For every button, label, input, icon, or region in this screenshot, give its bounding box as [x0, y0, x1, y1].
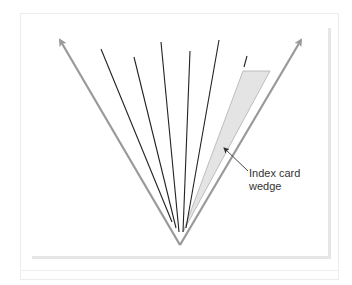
wedge-label-line1: Index card	[249, 167, 300, 180]
index-card-wedge	[183, 71, 270, 232]
wedge-label: Index card wedge	[249, 167, 300, 193]
left-boundary-arrow	[60, 40, 180, 245]
right-boundary-arrow	[180, 40, 301, 245]
fan-diagram	[0, 0, 352, 285]
wedge-label-line2: wedge	[249, 180, 300, 193]
